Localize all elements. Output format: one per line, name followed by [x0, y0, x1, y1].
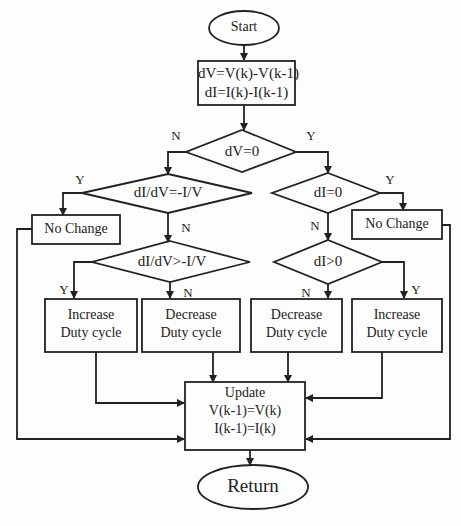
branch-di-gt-no: N [300, 285, 312, 301]
decision-di-gt-label: dI>0 [300, 252, 356, 270]
increase-right-line1: Increase [352, 307, 442, 324]
branch-didv-eq-no: N [180, 220, 192, 236]
decrease-left-line1: Decrease [142, 307, 240, 324]
branch-dv-no: N [170, 128, 182, 144]
branch-di-gt-yes: Y [410, 282, 422, 298]
branch-di-eq-no: N [309, 218, 321, 234]
compute-line2: dI=I(k)-I(k-1) [198, 83, 295, 101]
update-line2: V(k-1)=V(k) [185, 403, 305, 420]
decrease-right-line1: Decrease [251, 307, 342, 324]
start-label: Start [209, 19, 279, 36]
decrease-right-line2: Duty cycle [251, 325, 342, 342]
flowchart-canvas: Start dV=V(k)-V(k-1) dI=I(k)-I(k-1) dV=0… [0, 0, 461, 526]
branch-dv-yes: Y [305, 128, 317, 144]
decision-di-eq-label: dI=0 [296, 183, 360, 201]
no-change-left-label: No Change [32, 221, 120, 238]
branch-didv-gt-yes: Y [58, 282, 70, 298]
branch-di-eq-yes: Y [384, 172, 396, 188]
decision-didv-gt-label: dI/dV>-I/V [114, 252, 230, 270]
return-label: Return [198, 475, 308, 498]
no-change-right-label: No Change [352, 216, 442, 233]
branch-didv-eq-yes: Y [74, 172, 86, 188]
decrease-left-line2: Duty cycle [142, 325, 240, 342]
increase-left-line1: Increase [45, 307, 137, 324]
increase-right-line2: Duty cycle [352, 325, 442, 342]
update-line1: Update [185, 385, 305, 402]
increase-left-line2: Duty cycle [45, 325, 137, 342]
decision-dv-zero-label: dV=0 [200, 142, 284, 160]
compute-line1: dV=V(k)-V(k-1) [198, 64, 295, 82]
branch-didv-gt-no: N [182, 285, 194, 301]
update-line3: I(k-1)=I(k) [185, 421, 305, 438]
decision-didv-eq-label: dI/dV=-I/V [110, 183, 226, 201]
